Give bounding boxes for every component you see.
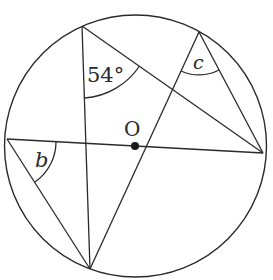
angle-label-b: b	[35, 148, 48, 172]
angle-label-c: c	[193, 51, 204, 73]
angle-label-54: 54°	[87, 63, 124, 87]
chord-left-to-bottom	[7, 139, 90, 269]
chord-top-right-to-right	[199, 32, 263, 153]
circle-diagram: 54° c b O	[0, 0, 273, 280]
center-point	[131, 142, 139, 150]
center-label-o: O	[124, 117, 140, 141]
